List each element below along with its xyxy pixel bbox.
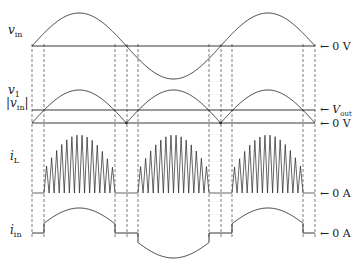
waveform-diagram (0, 0, 363, 268)
ref-text: 0 V (332, 40, 350, 53)
input-current-waveform (32, 208, 315, 258)
label-i-in: iin (10, 224, 22, 239)
left-arrow-icon: ← (320, 40, 329, 53)
abs-close: | (25, 96, 29, 110)
label-var: v (8, 23, 15, 37)
v1-rectified-waveform (32, 90, 315, 123)
label-v-in: vin (8, 24, 23, 39)
label-abs-v-in: |vin| (6, 97, 29, 112)
left-arrow-icon: ← (320, 103, 329, 116)
dashed-timing-guides (32, 44, 315, 238)
zero-crossing-dot (219, 122, 221, 124)
ref-label-v1-0V: ←0 V (320, 118, 351, 129)
ref-var: V (332, 103, 340, 116)
label-i-L: iL (10, 150, 19, 165)
left-arrow-icon: ← (320, 187, 329, 200)
label-var: v (10, 96, 17, 110)
zero-crossing-dot (125, 122, 127, 124)
ref-text: 0 A (332, 227, 350, 240)
ref-text: 0 V (332, 117, 350, 130)
label-var: v (8, 83, 15, 97)
ref-label-vin-0V: ←0 V (320, 41, 351, 52)
inductor-current-waveform (32, 135, 315, 193)
ref-text: 0 A (332, 187, 350, 200)
reference-baselines (32, 46, 315, 123)
label-sub: in (15, 30, 23, 39)
ref-label-iin-0A: ←0 A (320, 228, 351, 239)
label-sub: L (14, 156, 19, 165)
left-arrow-icon: ← (320, 227, 329, 240)
ref-label-iL-0A: ←0 A (320, 188, 351, 199)
label-sub: in (14, 230, 22, 239)
left-arrow-icon: ← (320, 117, 329, 130)
label-sub: in (17, 103, 25, 112)
